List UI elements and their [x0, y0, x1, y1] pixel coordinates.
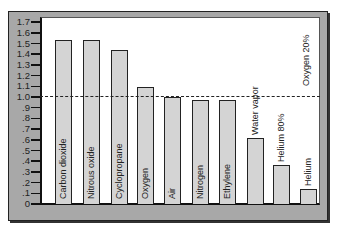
y-tick: [31, 21, 40, 23]
bar-label: Water vapor: [250, 86, 260, 135]
y-tick-label: 1.7: [10, 17, 30, 27]
y-tick: [31, 150, 40, 152]
y-tick-label: 0: [10, 199, 30, 209]
y-tick-label: 1.3: [10, 60, 30, 70]
y-tick-label: .9: [10, 103, 30, 113]
y-tick: [31, 53, 40, 55]
bar-label: Nitrous oxide: [86, 146, 96, 199]
y-tick-label: .8: [10, 113, 30, 123]
y-tick-label: .2: [10, 178, 30, 188]
bar-label: Air: [167, 188, 177, 199]
y-tick-label: .5: [10, 146, 30, 156]
y-tick-label: 1.0: [10, 92, 30, 102]
bar-label: Helium: [303, 158, 313, 186]
y-tick: [31, 32, 40, 34]
y-tick-label: 1.4: [10, 49, 30, 59]
y-tick: [31, 182, 40, 184]
bar: [247, 138, 264, 204]
y-tick-label: .4: [10, 156, 30, 166]
y-tick-label: .3: [10, 167, 30, 177]
y-tick: [31, 43, 40, 45]
y-tick: [31, 118, 40, 120]
y-tick-label: 1.2: [10, 71, 30, 81]
y-tick-label: 1.6: [10, 28, 30, 38]
bar-label: Helium 80%: [276, 114, 286, 163]
reference-line-1-0: [40, 96, 320, 97]
y-tick-label: .1: [10, 188, 30, 198]
y-tick: [31, 128, 40, 130]
y-tick: [31, 160, 40, 162]
bar-label: Oxygen: [140, 168, 150, 199]
y-tick-label: .7: [10, 124, 30, 134]
y-tick: [31, 75, 40, 77]
y-tick: [31, 64, 40, 66]
bar: [300, 189, 317, 204]
y-tick: [31, 86, 40, 88]
bar-label: Carbon dioxide: [58, 138, 68, 199]
y-tick-label: .6: [10, 135, 30, 145]
y-tick: [31, 139, 40, 141]
y-tick: [31, 96, 40, 98]
bar-label: Nitrogen: [195, 165, 205, 199]
y-tick-label: 1.1: [10, 81, 30, 91]
y-tick: [31, 107, 40, 109]
bar-label-oxygen-20: Oxygen 20%: [301, 34, 311, 86]
y-tick: [31, 203, 40, 205]
y-tick: [31, 171, 40, 173]
bar: [273, 165, 290, 204]
y-tick: [31, 193, 40, 195]
y-tick-label: 1.5: [10, 39, 30, 49]
bar-label: Cyclopropane: [114, 143, 124, 199]
bar-label: Ethylene: [222, 164, 232, 199]
